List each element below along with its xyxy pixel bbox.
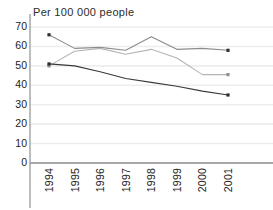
x-axis-tick-labels: 19941995199619971998199920002001 <box>0 0 273 210</box>
x-tick-label: 1994 <box>43 168 55 192</box>
chart-container: Per 100 000 people 010203040506070 19941… <box>0 0 273 210</box>
x-tick-label: 1995 <box>69 168 81 192</box>
x-tick-label: 2001 <box>222 168 234 192</box>
x-tick-label: 1998 <box>145 168 157 192</box>
x-tick-label: 1997 <box>120 168 132 192</box>
x-tick-label: 2000 <box>196 168 208 192</box>
x-tick-label: 1999 <box>171 168 183 192</box>
x-tick-label: 1996 <box>94 168 106 192</box>
